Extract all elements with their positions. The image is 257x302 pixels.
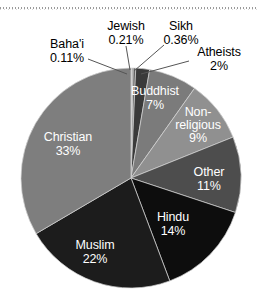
slice-label-hindu-percent: 14% (145, 225, 201, 239)
slice-label-hindu: Hindu 14% (145, 211, 201, 238)
slice-label-bahai-percent: 0.11% (36, 52, 98, 66)
slice-label-muslim-name: Muslim (62, 239, 128, 253)
slice-label-buddhist-name: Buddhist (122, 85, 188, 99)
slice-label-sikh: Sikh 0.36% (157, 20, 205, 47)
slice-label-other-percent: 11% (181, 180, 237, 194)
slice-label-muslim-percent: 22% (62, 253, 128, 267)
slice-label-bahai-name: Baha'i (36, 38, 98, 52)
slice-label-jewish-percent: 0.21% (100, 34, 152, 48)
slice-label-jewish-name: Jewish (100, 20, 152, 34)
slice-label-hindu-name: Hindu (145, 211, 201, 225)
slice-label-atheists: Atheists 2% (186, 46, 252, 73)
slice-label-non-religious: Non- religious 9% (168, 106, 228, 145)
slice-label-other-name: Other (181, 166, 237, 180)
slice-label-sikh-name: Sikh (157, 20, 205, 34)
slice-label-non-religious-percent: 9% (168, 132, 228, 145)
leader-line-atheists (141, 61, 189, 74)
slice-label-christian-percent: 33% (30, 145, 106, 159)
slice-label-christian-name: Christian (30, 131, 106, 145)
pie-chart-figure: Baha'i 0.11% Jewish 0.21% Sikh 0.36% Ath… (0, 0, 257, 302)
slice-label-atheists-percent: 2% (186, 60, 252, 74)
slice-label-muslim: Muslim 22% (62, 239, 128, 266)
slice-label-atheists-name: Atheists (186, 46, 252, 60)
slice-label-other: Other 11% (181, 166, 237, 193)
slice-label-jewish: Jewish 0.21% (100, 20, 152, 47)
slice-label-bahai: Baha'i 0.11% (36, 38, 98, 65)
slice-label-christian: Christian 33% (30, 131, 106, 158)
leader-line-jewish (126, 46, 130, 70)
leader-line-sikh (134, 45, 164, 71)
